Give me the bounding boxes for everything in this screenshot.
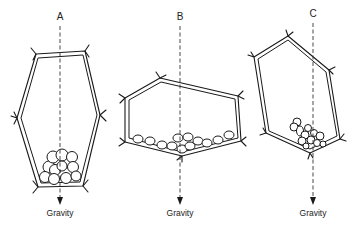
cell-a-arrow-down-icon [57, 197, 63, 205]
cell-a-gravity-label: Gravity [47, 208, 75, 218]
cell-c-gravity-label: Gravity [300, 208, 328, 218]
cell-a: A Gravity [11, 11, 106, 218]
cell-b-outer-wall [125, 78, 241, 156]
cell-b-arrow-down-icon [177, 197, 183, 205]
cell-b-gravity-label: Gravity [167, 208, 195, 218]
statolith-gravity-diagram: A Gravity B [0, 0, 360, 229]
cell-c-amyloplasts [290, 118, 326, 149]
cell-c-arrow-down-icon [310, 197, 316, 205]
cell-a-label: A [57, 11, 64, 22]
cell-c-label: C [309, 8, 316, 19]
cell-b-amyloplasts [133, 131, 234, 153]
cell-c: C Gravity [248, 8, 346, 218]
cell-c-junctions [248, 30, 346, 159]
cell-b-label: B [177, 11, 184, 22]
cell-b: B Gravity [119, 11, 246, 218]
